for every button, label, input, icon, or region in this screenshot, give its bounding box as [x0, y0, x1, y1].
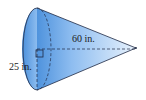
- radius-label: 25 in.: [9, 62, 32, 72]
- cone-diagram: [0, 0, 146, 100]
- apex-point: [135, 47, 137, 49]
- height-label: 60 in.: [72, 34, 95, 44]
- cone-base-front: [22, 8, 37, 90]
- cone-body: [37, 8, 136, 90]
